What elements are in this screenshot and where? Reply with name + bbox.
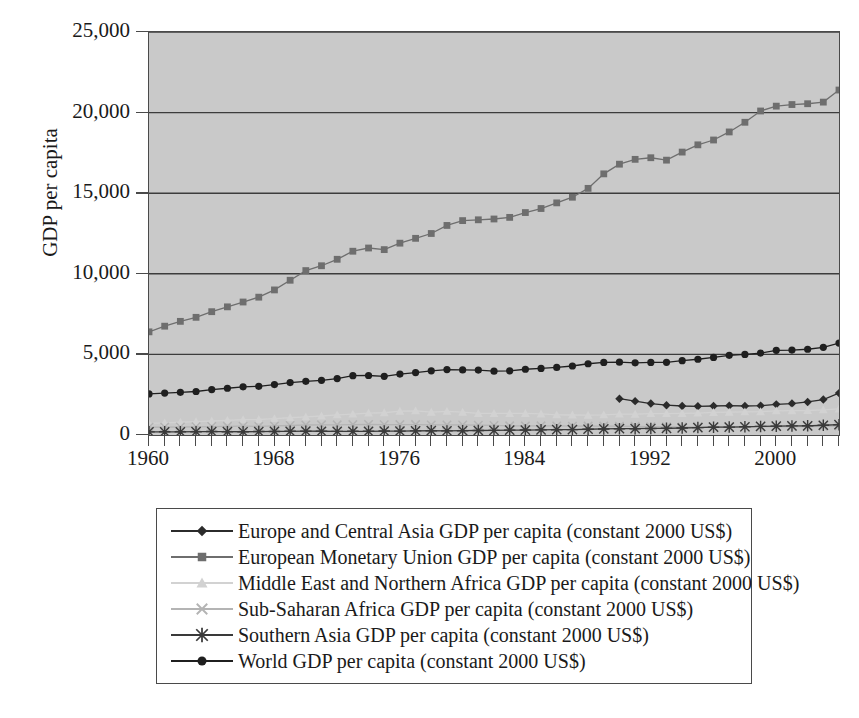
data-point-marker <box>600 359 607 366</box>
data-point-marker <box>663 157 670 164</box>
data-point-marker <box>567 424 579 435</box>
x-tick-label: 1984 <box>503 446 545 471</box>
x-axis-tick <box>321 435 322 446</box>
data-point-marker <box>271 381 278 388</box>
data-point-marker <box>506 214 513 221</box>
data-point-marker <box>347 426 359 435</box>
data-point-marker <box>490 368 497 375</box>
data-point-marker <box>428 367 435 374</box>
x-axis-tick <box>838 435 839 446</box>
data-point-marker <box>381 246 388 253</box>
data-point-marker <box>662 401 670 409</box>
data-point-marker <box>318 262 325 269</box>
data-point-marker <box>331 426 343 435</box>
data-point-marker <box>197 526 208 537</box>
legend-label: Southern Asia GDP per capita (constant 2… <box>238 625 649 645</box>
data-point-marker <box>441 425 453 435</box>
data-point-marker <box>553 364 560 371</box>
data-point-marker <box>616 161 623 168</box>
x-axis-tick <box>681 435 682 446</box>
data-point-marker <box>694 356 701 363</box>
data-point-marker <box>240 299 247 306</box>
x-axis-tick <box>775 435 776 446</box>
x-axis-tick <box>430 435 431 446</box>
data-point-marker <box>224 303 231 310</box>
x-axis-tick <box>289 435 290 446</box>
x-axis-tick <box>493 435 494 446</box>
series-0 <box>615 389 839 411</box>
y-axis-tick <box>136 192 148 193</box>
data-point-marker <box>773 103 780 110</box>
data-point-marker <box>488 425 500 435</box>
x-axis-tick <box>462 435 463 446</box>
data-point-marker <box>663 359 670 366</box>
data-point-marker <box>726 129 733 136</box>
data-point-marker <box>739 421 751 433</box>
data-point-marker <box>365 245 372 252</box>
data-point-marker <box>615 395 623 403</box>
chart-legend: Europe and Central Asia GDP per capita (… <box>156 508 752 684</box>
x-axis-tick <box>383 435 384 446</box>
legend-entry[interactable]: Middle East and Northern Africa GDP per … <box>169 570 751 596</box>
data-point-marker <box>723 421 735 433</box>
data-point-marker <box>239 383 246 390</box>
x-axis-tick <box>571 435 572 446</box>
data-point-marker <box>679 149 686 156</box>
legend-entry[interactable]: Sub-Saharan Africa GDP per capita (const… <box>169 596 751 622</box>
data-point-marker <box>316 426 328 435</box>
x-axis-tick <box>274 435 275 446</box>
legend-entry[interactable]: Southern Asia GDP per capita (constant 2… <box>169 622 751 648</box>
data-point-marker <box>661 423 673 435</box>
data-point-marker <box>757 350 764 357</box>
data-point-marker <box>506 367 513 374</box>
data-point-marker <box>177 318 184 325</box>
x-axis-tick <box>226 435 227 446</box>
data-point-marker <box>193 314 200 321</box>
data-point-marker <box>349 372 356 379</box>
legend-entry[interactable]: European Monetary Union GDP per capita (… <box>169 544 751 570</box>
data-point-marker <box>177 389 184 396</box>
x-axis-tick <box>603 435 604 446</box>
x-axis-tick <box>477 435 478 446</box>
data-point-marker <box>771 420 783 432</box>
x-axis-tick <box>195 435 196 446</box>
data-point-marker <box>569 362 576 369</box>
data-point-marker <box>804 100 811 107</box>
data-point-marker <box>569 194 576 201</box>
data-point-marker <box>349 248 356 255</box>
data-point-marker <box>444 222 451 229</box>
data-point-marker <box>195 628 209 642</box>
x-tick-label: 1992 <box>629 446 671 471</box>
data-point-marker <box>287 277 294 284</box>
data-point-marker <box>522 366 529 373</box>
x-axis-tick <box>650 435 651 446</box>
legend-marker-square-icon <box>169 547 235 567</box>
data-point-marker <box>692 422 704 434</box>
data-point-marker <box>412 235 419 242</box>
x-axis-tick <box>242 435 243 446</box>
data-point-marker <box>475 366 482 373</box>
data-point-marker <box>741 351 748 358</box>
legend-marker-x-icon <box>169 599 235 619</box>
data-point-marker <box>631 397 639 405</box>
data-point-marker <box>584 360 591 367</box>
data-point-marker <box>161 323 168 330</box>
legend-entry[interactable]: World GDP per capita (constant 2000 US$) <box>169 648 751 674</box>
x-axis-tick <box>556 435 557 446</box>
x-axis-tick <box>509 435 510 446</box>
y-axis-tick <box>136 353 148 354</box>
y-tick-label: 15,000 <box>34 181 130 202</box>
data-point-marker <box>504 424 516 435</box>
data-point-marker <box>757 108 764 115</box>
x-axis-tick <box>446 435 447 446</box>
series-line <box>149 90 839 332</box>
x-axis-tick <box>524 435 525 446</box>
gdp-per-capita-line-chart: GDP per capita 05,00010,00015,00020,0002… <box>0 0 859 718</box>
legend-label: Europe and Central Asia GDP per capita (… <box>238 521 732 541</box>
legend-entry[interactable]: Europe and Central Asia GDP per capita (… <box>169 518 751 544</box>
data-point-marker <box>302 378 309 385</box>
data-point-marker <box>835 340 839 347</box>
data-point-marker <box>835 389 839 397</box>
y-tick-label: 25,000 <box>34 20 130 41</box>
x-axis-tick <box>368 435 369 446</box>
